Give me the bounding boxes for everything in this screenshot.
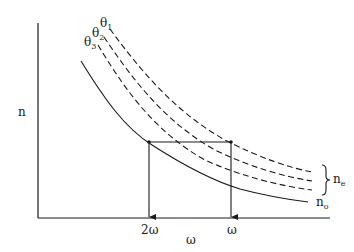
label-theta1: θ1 [100, 16, 112, 32]
point-2omega [147, 140, 151, 144]
y-axis-label: n [18, 105, 26, 119]
ne-brace-icon [322, 165, 330, 195]
point-omega [229, 140, 233, 144]
x-axis-label: ω [186, 233, 196, 247]
ne-curves [98, 29, 312, 190]
curve-theta3 [98, 45, 312, 190]
phase-matching-construction [147, 140, 233, 217]
axes [38, 23, 330, 218]
label-ne: ne [333, 172, 346, 188]
curve-no [81, 61, 308, 202]
tick-label-2omega: 2ω [141, 223, 159, 237]
curve-theta1 [110, 29, 312, 172]
curve-theta2 [104, 37, 312, 181]
tick-label-omega: ω [227, 223, 237, 237]
label-no: no [316, 195, 329, 211]
phase-matching-diagram: n ω 2ω ω θ1 θ2 θ3 ne no [0, 0, 354, 252]
